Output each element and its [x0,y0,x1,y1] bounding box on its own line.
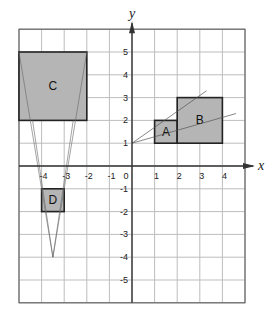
y-tick-label: 1 [123,138,128,148]
y-axis-label: y [127,6,136,21]
x-tick-label: -4 [40,171,48,181]
y-tick-label: -3 [120,229,128,239]
x-tick-label: 2 [177,171,182,181]
y-tick-label: -2 [120,207,128,217]
x-tick-label: -3 [62,171,70,181]
y-tick-label: 5 [123,47,128,57]
shape-label-b: B [196,113,204,127]
x-tick-label: 3 [199,171,204,181]
y-tick-label: 4 [123,70,128,80]
x-tick-label: 0 [123,171,128,181]
x-tick-label: 4 [222,171,227,181]
y-axis-arrow-icon [129,21,135,33]
x-tick-label: 1 [154,171,159,181]
x-axis-arrow-icon [243,163,255,169]
shape-label-c: C [49,79,58,93]
x-tick-label: -2 [85,171,93,181]
x-tick-label: -1 [107,171,115,181]
y-tick-label: -4 [120,252,128,262]
y-tick-label: -1 [120,184,128,194]
y-tick-label: -5 [120,275,128,285]
x-axis-label: x [257,158,265,173]
shape-label-a: A [162,125,170,139]
y-tick-label: 3 [123,93,128,103]
y-tick-label: 2 [123,115,128,125]
axes: xy [19,6,265,303]
shape-label-d: D [49,193,58,207]
coordinate-diagram: ABCD xy -4-3-2-10123454321-1-2-3-4-5 [0,0,268,318]
